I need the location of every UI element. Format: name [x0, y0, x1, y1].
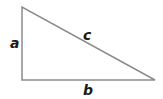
right-triangle-diagram: a c b [0, 0, 163, 99]
side-label-c: c [83, 27, 92, 43]
side-label-b: b [83, 82, 93, 98]
triangle-shape [22, 7, 155, 80]
side-label-a: a [10, 35, 19, 51]
